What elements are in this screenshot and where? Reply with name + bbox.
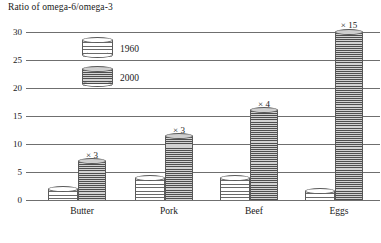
right-tick-10 [373,144,380,145]
right-tick-30 [373,32,380,33]
y-tick-5: 5 [2,168,22,177]
bar-beef-2000 [250,110,278,200]
y-tick-20: 20 [2,84,22,93]
legend-swatch-1960 [82,40,113,55]
bar-eggs-2000 [335,32,363,200]
annotation-eggs-multiplier: × 15 [326,20,372,30]
y-tick-15: 15 [2,112,22,121]
legend-base-icon [82,81,113,87]
right-tick-5 [373,172,380,173]
bar-cap-icon [305,188,335,194]
right-tick-20 [373,88,380,89]
y-tick-0: 0 [2,196,22,205]
gridline-15 [26,116,373,117]
bar-butter-1960 [48,189,78,200]
right-tick-25 [373,60,380,61]
gridline-20 [26,88,373,89]
bar-cap-icon [135,175,165,181]
gridline-30 [26,32,373,33]
bar-eggs-1960 [305,191,335,200]
y-tick-25: 25 [2,56,22,65]
x-tick-beef: Beef [224,206,284,216]
annotation-pork-multiplier: × 3 [158,125,200,135]
legend-base-icon [82,52,113,58]
bar-cap-icon [220,175,250,181]
bar-cap-icon [48,186,78,192]
x-axis-line [26,200,380,201]
y-axis-tick-labels: 30 25 20 15 10 5 0 [0,32,22,200]
right-tick-15 [373,116,380,117]
y-tick-10: 10 [2,140,22,149]
legend-cap-icon [82,37,113,43]
bar-pork-2000 [165,136,193,200]
gridline-25 [26,60,373,61]
y-tick-30: 30 [2,28,22,37]
x-tick-eggs: Eggs [309,206,369,216]
bar-butter-2000 [78,161,106,200]
omega-ratio-bar-chart: Ratio of omega-6/omega-3 30 25 20 15 10 … [0,0,381,243]
bar-pork-1960 [135,178,165,200]
gridline-10 [26,144,373,145]
legend-swatch-2000 [82,69,113,84]
bar-beef-1960 [220,178,250,200]
x-tick-pork: Pork [139,206,199,216]
plot-area: × 3 × 3 × 4 × 15 1960 [26,32,373,200]
chart-title: Ratio of omega-6/omega-3 [8,2,113,12]
annotation-butter-multiplier: × 3 [71,150,113,160]
x-tick-butter: Butter [52,206,112,216]
legend-label-2000: 2000 [120,73,139,83]
annotation-beef-multiplier: × 4 [243,99,285,109]
legend-label-1960: 1960 [120,44,139,54]
legend-cap-icon [82,66,113,72]
